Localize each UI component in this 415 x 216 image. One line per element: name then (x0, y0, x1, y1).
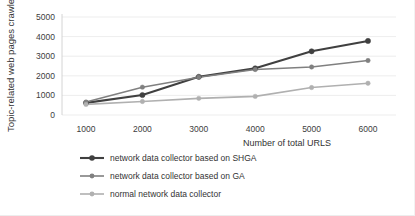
x-tick-label: 4000 (246, 124, 265, 134)
y-axis-title: Topic-related web pages crawled (5, 0, 16, 132)
x-tick-label: 6000 (359, 124, 378, 134)
data-point-marker (140, 85, 144, 89)
data-point-marker (366, 58, 370, 62)
x-tick-label: 2000 (133, 124, 152, 134)
data-point-marker (140, 99, 144, 103)
y-tick-label: 0 (50, 110, 55, 120)
x-tick-labels: 100020003000400050006000 (77, 124, 378, 134)
x-tick-label: 5000 (302, 124, 321, 134)
data-point-marker (197, 75, 201, 79)
y-tick-label: 1000 (36, 90, 55, 100)
legend-item-label: network data collector based on GA (110, 171, 245, 181)
x-axis-title: Number of total URLS (243, 138, 331, 148)
data-point-marker (253, 67, 257, 71)
y-tick-label: 3000 (36, 51, 55, 61)
y-tick-labels: 010002000300040005000 (36, 12, 55, 120)
y-tick-label: 5000 (36, 12, 55, 22)
legend-item-label: network data collector based on SHGA (110, 153, 257, 163)
series-line (86, 61, 368, 103)
data-point-marker (253, 94, 257, 98)
legend-item-label: normal network data collector (110, 189, 221, 199)
data-point-marker (84, 102, 88, 106)
y-tick-label: 4000 (36, 32, 55, 42)
series-line (86, 83, 368, 104)
series-lines (86, 41, 368, 105)
legend: network data collector based on SHGAnetw… (80, 153, 257, 199)
data-point-marker (140, 92, 145, 97)
data-point-marker (366, 81, 370, 85)
data-point-marker (309, 65, 313, 69)
series-line (86, 41, 368, 103)
legend-swatch-marker (90, 192, 95, 197)
chart-figure: 010002000300040005000 100020003000400050… (0, 0, 415, 216)
y-tick-label: 2000 (36, 71, 55, 81)
x-tick-label: 1000 (77, 124, 96, 134)
x-tick-label: 3000 (189, 124, 208, 134)
legend-swatch-marker (90, 174, 95, 179)
data-point-marker (365, 38, 370, 43)
data-point-marker (197, 96, 201, 100)
data-point-marker (309, 85, 313, 89)
gridlines (62, 17, 396, 115)
legend-swatch-marker (89, 155, 95, 161)
data-point-marker (309, 49, 314, 54)
line-chart-svg: 010002000300040005000 100020003000400050… (0, 0, 415, 216)
